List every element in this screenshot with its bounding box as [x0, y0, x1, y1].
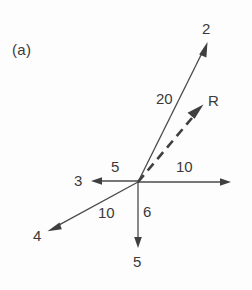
panel-tag: (a) — [12, 42, 31, 57]
label-upper-right-tip: 2 — [202, 21, 210, 36]
vector-down-arrowhead — [134, 237, 142, 248]
vector-lower-left — [48, 182, 139, 231]
vector-left — [91, 177, 138, 185]
label-right-magnitude: 10 — [176, 159, 193, 174]
label-upper-right-magnitude: 20 — [156, 91, 173, 106]
label-left-magnitude: 5 — [111, 159, 119, 174]
vector-lower-left-arrowhead — [48, 223, 62, 232]
label-down-magnitude: 6 — [143, 204, 151, 219]
vector-right — [138, 178, 231, 186]
label-down-tip: 5 — [133, 254, 141, 269]
vector-resultant-arrowhead — [188, 105, 204, 119]
label-resultant-tip: R — [208, 93, 219, 108]
label-lower-left-magnitude: 10 — [98, 205, 115, 220]
vector-diagram-canvas — [0, 0, 252, 290]
label-lower-left-tip: 4 — [33, 228, 41, 243]
vector-diagram-figure: (a) 2 20 R 5 10 3 10 6 4 5 — [0, 0, 252, 290]
vector-down — [134, 182, 142, 248]
label-left-tip: 3 — [74, 173, 82, 188]
vector-right-arrowhead — [220, 178, 231, 186]
vector-left-arrowhead — [91, 177, 102, 185]
vector-lower-left-shaft — [56, 182, 138, 227]
